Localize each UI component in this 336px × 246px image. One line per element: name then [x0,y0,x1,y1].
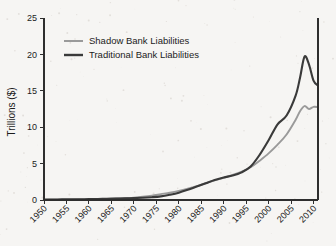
paper-speckle [170,97,172,99]
paper-speckle [231,70,232,71]
paper-speckle [168,191,169,192]
paper-speckle [109,14,111,16]
paper-speckle [164,83,165,84]
paper-speckle [322,120,323,121]
paper-speckle [297,63,298,64]
paper-speckle [22,114,24,116]
paper-speckle [93,69,94,70]
paper-speckle [14,50,16,52]
paper-speckle [297,140,299,142]
paper-speckle [56,141,57,142]
paper-speckle [206,24,207,25]
paper-speckle [253,16,254,17]
y-tick-label: 0 [32,195,37,205]
paper-speckle [83,76,84,77]
paper-speckle [13,192,15,194]
legend-label-1: Shadow Bank Liabilities [89,35,190,46]
paper-speckle [164,85,165,86]
paper-speckle [126,31,128,33]
paper-speckle [110,2,111,3]
paper-speckle [304,128,305,129]
paper-speckle [181,100,183,102]
paper-speckle [294,198,295,199]
paper-speckle [249,66,250,67]
chart-figure: 1950195519601965197019751980198519901995… [0,0,336,246]
paper-speckle [314,58,315,59]
paper-speckle [182,95,184,97]
paper-speckle [18,13,20,15]
paper-speckle [275,190,276,191]
paper-speckle [221,145,222,146]
paper-speckle [301,1,302,2]
paper-speckle [296,55,297,56]
paper-speckle [154,229,155,230]
paper-speckle [97,239,98,240]
paper-speckle [285,165,286,166]
paper-speckle [69,42,71,44]
paper-speckle [299,11,300,12]
paper-speckle [332,58,334,60]
paper-speckle [159,188,160,189]
paper-speckle [204,95,205,96]
paper-speckle [162,151,164,153]
paper-speckle [325,143,326,144]
paper-speckle [269,21,270,22]
paper-speckle [329,158,330,159]
paper-speckle [194,157,195,158]
paper-speckle [207,147,208,148]
paper-speckle [8,190,9,191]
paper-speckle [275,166,277,168]
legend-label-2: Traditional Bank Liabilities [89,49,199,60]
paper-speckle [6,228,8,230]
line-chart: 1950195519601965197019751980198519901995… [0,0,336,246]
paper-speckle [61,8,62,9]
paper-speckle [123,89,125,91]
paper-speckle [28,135,30,137]
paper-speckle [40,179,41,180]
paper-speckle [71,58,73,60]
paper-speckle [320,169,321,170]
paper-speckle [204,23,205,24]
paper-speckle [229,222,231,224]
y-tick-label: 10 [27,122,37,132]
paper-speckle [66,32,68,34]
paper-speckle [177,140,179,142]
paper-speckle [329,119,330,120]
paper-speckle [65,154,66,155]
y-tick-label: 25 [27,13,37,23]
y-tick-label: 5 [32,159,37,169]
paper-speckle [311,67,313,69]
paper-speckle [287,120,288,121]
y-tick-label: 15 [27,86,37,96]
paper-speckle [246,163,247,164]
y-tick-label: 20 [27,50,37,60]
paper-speckle [190,120,192,122]
paper-speckle [313,222,314,223]
paper-speckle [74,57,75,58]
paper-speckle [153,193,155,195]
paper-speckle [6,18,8,20]
paper-speckle [177,178,178,179]
paper-speckle [23,152,25,154]
paper-speckle [307,114,308,115]
paper-speckle [80,72,81,73]
paper-speckle [260,167,261,168]
paper-speckle [265,198,266,199]
paper-speckle [243,130,244,131]
paper-speckle [235,9,236,10]
paper-speckle [261,106,262,107]
paper-speckle [74,38,76,40]
paper-speckle [70,121,71,122]
paper-speckle [26,176,27,177]
paper-speckle [150,135,151,136]
paper-speckle [185,5,186,6]
paper-speckle [237,157,238,158]
paper-speckle [220,172,222,174]
paper-speckle [68,193,70,195]
paper-speckle [76,14,77,15]
paper-speckle [200,128,202,130]
paper-speckle [272,163,273,164]
paper-speckle [50,60,51,61]
paper-speckle [27,202,28,203]
paper-speckle [51,15,52,16]
